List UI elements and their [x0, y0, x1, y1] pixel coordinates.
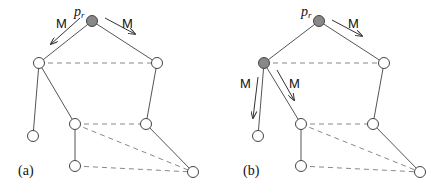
root-node-filled: [87, 16, 98, 27]
root-label: pr: [300, 4, 312, 20]
root-node-filled: [314, 16, 325, 27]
node: [188, 167, 199, 178]
node: [70, 119, 81, 130]
node: [141, 119, 152, 130]
message-arrow-down-left: [253, 77, 258, 118]
edge-root-left: [264, 21, 319, 63]
node: [296, 119, 307, 130]
node: [152, 58, 163, 69]
message-label: M: [348, 16, 359, 31]
node: [415, 167, 426, 178]
node: [379, 58, 390, 69]
node: [34, 58, 45, 69]
node: [296, 161, 307, 172]
edge-rightmid-bottomright: [373, 124, 420, 172]
node-filled: [259, 58, 270, 69]
node: [70, 161, 81, 172]
panel-b: M M M pr (b): [240, 4, 426, 179]
edge-right-mid: [146, 63, 157, 124]
node: [253, 131, 264, 142]
panel-label-a: (a): [18, 163, 34, 179]
message-label: M: [240, 76, 251, 91]
message-label: M: [289, 76, 300, 91]
node: [28, 131, 39, 142]
message-label: M: [56, 16, 67, 31]
dashed-edge: [301, 124, 420, 172]
root-label: pr: [73, 4, 85, 20]
panel-a: M M pr (a): [18, 4, 199, 179]
edge-left-leaf: [258, 63, 264, 136]
edge-left-mid: [39, 63, 75, 124]
edge-right-mid: [373, 63, 384, 124]
dashed-edge: [75, 124, 193, 172]
tree-broadcast-diagram: M M pr (a) M M M pr: [0, 0, 448, 185]
dashed-edge: [301, 166, 420, 172]
edge-rightmid-bottomright: [146, 124, 193, 172]
edge-left-leaf: [33, 63, 39, 136]
panel-label-b: (b): [243, 163, 260, 179]
dashed-edge: [75, 166, 193, 172]
edge-left-mid: [264, 63, 301, 124]
message-label: M: [122, 16, 133, 31]
node: [368, 119, 379, 130]
